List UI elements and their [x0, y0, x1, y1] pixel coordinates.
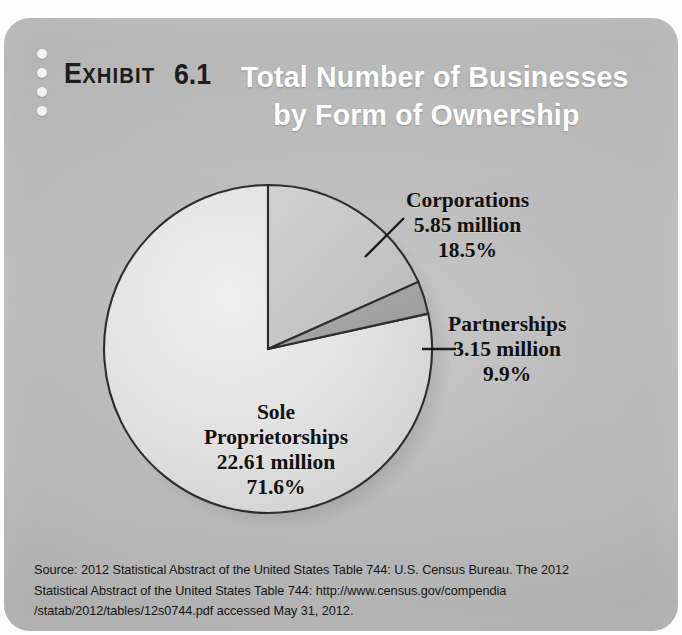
- page-title: Total Number of Businesses by Form of Ow…: [241, 58, 629, 135]
- exhibit-number: 6.1: [174, 58, 211, 91]
- callout-sole-proprietorships: Sole Proprietorships 22.61 million 71.6%: [158, 400, 394, 500]
- header-dot-icon: [37, 68, 47, 78]
- callout-sole-value: 22.61 million: [158, 450, 394, 475]
- header-dot-icon: [37, 49, 47, 59]
- header-dot-column: [37, 49, 51, 116]
- callout-sole-percent: 71.6%: [158, 475, 394, 500]
- callout-corporations-value: 5.85 million: [406, 213, 529, 238]
- source-line-3: /statab/2012/tables/12s0744.pdf accessed…: [34, 601, 624, 622]
- callout-partnerships-name: Partnerships: [448, 312, 566, 337]
- callout-partnerships-percent: 9.9%: [448, 362, 566, 387]
- exhibit-card: EXHIBIT 6.1 Total Number of Businesses b…: [4, 18, 678, 631]
- header-dot-icon: [37, 106, 47, 116]
- exhibit-label-prefix: E: [64, 57, 82, 89]
- source-line-1: Source: 2012 Statistical Abstract of the…: [34, 560, 624, 581]
- callout-corporations-name: Corporations: [406, 188, 529, 213]
- callout-corporations-percent: 18.5%: [406, 238, 529, 263]
- callout-partnerships-value: 3.15 million: [448, 337, 566, 362]
- screenshot-root: EXHIBIT 6.1 Total Number of Businesses b…: [0, 0, 682, 635]
- exhibit-label-rest: XHIBIT: [82, 63, 155, 88]
- callout-corporations: Corporations 5.85 million 18.5%: [406, 188, 529, 263]
- source-note: Source: 2012 Statistical Abstract of the…: [34, 560, 624, 622]
- title-line-1: Total Number of Businesses: [241, 58, 629, 96]
- exhibit-label: EXHIBIT: [64, 58, 155, 89]
- header-dot-icon: [37, 87, 47, 97]
- callout-sole-name-line1: Sole: [158, 400, 394, 425]
- callout-partnerships: Partnerships 3.15 million 9.9%: [448, 312, 566, 387]
- exhibit-header: EXHIBIT 6.1 Total Number of Businesses b…: [64, 58, 652, 135]
- callout-sole-name-line2: Proprietorships: [158, 425, 394, 450]
- title-line-2: by Form of Ownership: [241, 96, 629, 134]
- source-line-2: Statistical Abstract of the United State…: [34, 581, 624, 602]
